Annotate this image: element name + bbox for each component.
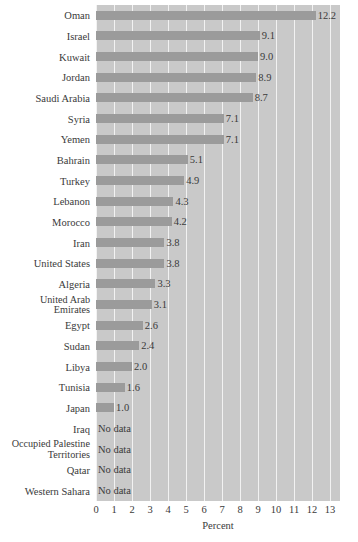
category-label: United States: [0, 258, 90, 269]
bar: [96, 155, 188, 164]
bar: [96, 279, 155, 288]
category-label: Morocco: [0, 217, 90, 228]
category-label: Turkey: [0, 176, 90, 187]
chart-row: IraqNo data: [0, 418, 358, 439]
category-label: Iraq: [0, 424, 90, 435]
value-label: 2.6: [145, 320, 158, 331]
bar: [96, 11, 316, 20]
category-label: Yemen: [0, 134, 90, 145]
category-label: Occupied Palestine Territories: [0, 439, 90, 460]
chart-row: Turkey4.9: [0, 170, 358, 191]
chart-row: Libya2.0: [0, 356, 358, 377]
value-label: 1.6: [127, 382, 140, 393]
category-label: Saudi Arabia: [0, 93, 90, 104]
bar: [96, 114, 224, 123]
value-label: No data: [98, 444, 131, 455]
chart-row: Western SaharaNo data: [0, 480, 358, 501]
bar: [96, 31, 260, 40]
chart-row: Occupied Palestine TerritoriesNo data: [0, 439, 358, 460]
value-label: 7.1: [226, 113, 239, 124]
bar: [96, 238, 164, 247]
x-tick-label: 6: [194, 504, 214, 516]
value-label: 4.9: [186, 175, 199, 186]
x-tick-label: 11: [284, 504, 304, 516]
x-tick-label: 9: [248, 504, 268, 516]
chart-row: Oman12.2: [0, 5, 358, 26]
category-label: Oman: [0, 10, 90, 21]
x-tick-label: 13: [320, 504, 340, 516]
x-axis: 012345678910111213 Percent: [0, 501, 358, 542]
value-label: 8.7: [255, 92, 268, 103]
x-tick-label: 7: [212, 504, 232, 516]
bar: [96, 341, 139, 350]
chart-row: Morocco4.2: [0, 212, 358, 233]
category-label: Sudan: [0, 341, 90, 352]
category-label: Israel: [0, 31, 90, 42]
bar: [96, 362, 132, 371]
value-label: 9.0: [260, 51, 273, 62]
bar: [96, 217, 172, 226]
x-tick-label: 3: [140, 504, 160, 516]
x-tick-label: 4: [158, 504, 178, 516]
category-label: Lebanon: [0, 196, 90, 207]
value-label: 2.4: [141, 340, 154, 351]
bar: [96, 259, 164, 268]
x-tick-label: 2: [122, 504, 142, 516]
value-label: 8.9: [258, 72, 271, 83]
chart-row: Yemen7.1: [0, 129, 358, 150]
value-label: 3.8: [166, 258, 179, 269]
category-label: Libya: [0, 362, 90, 373]
value-label: No data: [98, 485, 131, 496]
bar: [96, 52, 258, 61]
value-label: 5.1: [190, 154, 203, 165]
chart-row: United Arab Emirates3.1: [0, 294, 358, 315]
bar-chart: Oman12.2Israel9.1Kuwait9.0Jordan8.9Saudi…: [0, 0, 358, 542]
category-label: Bahrain: [0, 155, 90, 166]
category-label: Syria: [0, 114, 90, 125]
bar: [96, 403, 114, 412]
chart-row: Lebanon4.3: [0, 191, 358, 212]
category-label: Tunisia: [0, 382, 90, 393]
chart-row: Kuwait9.0: [0, 46, 358, 67]
chart-row: Saudi Arabia8.7: [0, 88, 358, 109]
chart-row: Israel9.1: [0, 26, 358, 47]
category-label: Egypt: [0, 320, 90, 331]
bar: [96, 135, 224, 144]
category-label: Qatar: [0, 465, 90, 476]
x-tick-label: 0: [86, 504, 106, 516]
chart-row: QatarNo data: [0, 460, 358, 481]
chart-row: Japan1.0: [0, 398, 358, 419]
bar: [96, 176, 184, 185]
chart-row: Bahrain5.1: [0, 150, 358, 171]
category-label: Kuwait: [0, 52, 90, 63]
bar: [96, 300, 152, 309]
value-label: 4.2: [174, 216, 187, 227]
x-tick-label: 12: [302, 504, 322, 516]
chart-row: Syria7.1: [0, 108, 358, 129]
value-label: 3.3: [157, 278, 170, 289]
chart-row: Egypt2.6: [0, 315, 358, 336]
x-axis-title: Percent: [96, 520, 340, 532]
bar: [96, 93, 253, 102]
value-label: No data: [98, 464, 131, 475]
bar: [96, 383, 125, 392]
x-tick-label: 5: [176, 504, 196, 516]
category-label: Iran: [0, 238, 90, 249]
bar: [96, 321, 143, 330]
category-label: Western Sahara: [0, 486, 90, 497]
value-label: 2.0: [134, 361, 147, 372]
value-label: No data: [98, 423, 131, 434]
x-tick-label: 10: [266, 504, 286, 516]
category-label: United Arab Emirates: [0, 295, 90, 316]
value-label: 3.8: [166, 237, 179, 248]
value-label: 9.1: [262, 30, 275, 41]
category-label: Algeria: [0, 279, 90, 290]
chart-row: United States3.8: [0, 253, 358, 274]
bar: [96, 197, 173, 206]
chart-row: Iran3.8: [0, 232, 358, 253]
value-label: 7.1: [226, 134, 239, 145]
value-label: 4.3: [175, 196, 188, 207]
x-tick-label: 8: [230, 504, 250, 516]
chart-row: Jordan8.9: [0, 67, 358, 88]
value-label: 12.2: [318, 10, 336, 21]
